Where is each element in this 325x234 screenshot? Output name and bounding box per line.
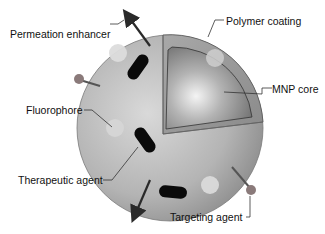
fluorophore-ball	[106, 119, 124, 137]
leader-polymer	[208, 20, 224, 37]
label-mnp-core: MNP core	[272, 83, 319, 95]
targeting-agent-ball	[246, 185, 256, 195]
label-fluorophore: Fluorophore	[26, 104, 83, 116]
fluorophore-ball	[109, 44, 127, 62]
fluorophore-ball	[201, 176, 219, 194]
nanoparticle-diagram: Permeation enhancer Polymer coating MNP …	[0, 0, 325, 234]
fluorophore-ball	[206, 49, 224, 67]
leader-targeting	[246, 196, 250, 217]
label-polymer-coating: Polymer coating	[226, 15, 301, 27]
targeting-agent-ball	[74, 74, 84, 84]
label-permeation-enhancer: Permeation enhancer	[10, 28, 110, 40]
label-targeting-agent: Targeting agent	[170, 211, 242, 223]
leader-permeation	[110, 20, 124, 24]
label-therapeutic-agent: Therapeutic agent	[18, 174, 103, 186]
